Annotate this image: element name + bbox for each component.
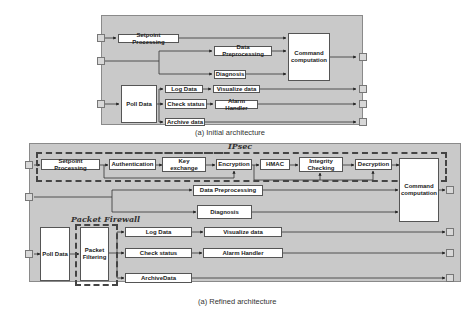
input-port: [25, 161, 33, 169]
initial-caption: (a) Initial architecture: [195, 128, 265, 137]
output-port: [359, 118, 367, 126]
output-port: [359, 100, 367, 108]
archive-data-box: Archive data: [165, 118, 205, 126]
setpoint-processing-box: Setpoint Processing: [41, 159, 100, 170]
data-preprocessing-box: Data Preprocessing: [193, 185, 263, 196]
command-computation-box: Command computation: [399, 158, 439, 222]
poll-data-box: Poll Data: [40, 227, 70, 281]
check-status-box: Check status: [165, 99, 207, 109]
input-port: [97, 100, 105, 108]
output-port: [446, 274, 454, 282]
refined-caption: (a) Refined architecture: [198, 297, 276, 306]
output-port: [359, 85, 367, 93]
archive-data-box: ArchiveData: [125, 273, 192, 283]
alarm-handler-box: Alarm Handler: [215, 100, 258, 109]
visualize-data-box: Visualize data: [213, 85, 260, 93]
diagnosis-box: Diagnosis: [197, 205, 252, 219]
ipsec-label: IPsec: [228, 141, 252, 151]
visualize-data-box: Visualize data: [204, 227, 282, 237]
authentication-box: Authentication: [109, 159, 156, 170]
integrity-checking-box: Integrity Checking: [299, 157, 343, 172]
input-port: [25, 193, 33, 201]
poll-data-box: Poll Data: [121, 85, 157, 123]
output-port: [446, 228, 454, 236]
output-port: [359, 53, 367, 61]
diagnosis-box: Diagnosis: [214, 70, 246, 79]
output-port: [446, 186, 454, 194]
key-exchange-box: Key exchange: [162, 157, 206, 172]
packet-firewall-label: Packet Firewall: [71, 214, 140, 224]
log-data-box: Log Data: [125, 227, 192, 237]
command-computation-box: Command computation: [288, 33, 330, 81]
hmac-box: HMAC: [260, 159, 290, 170]
setpoint-processing-box: Setpoint Processing: [118, 34, 179, 43]
log-data-box: Log Data: [165, 85, 203, 93]
output-port: [446, 249, 454, 257]
input-port: [25, 250, 33, 258]
input-port: [97, 34, 105, 42]
encryption-box: Encryption: [216, 159, 252, 170]
packet-filtering-box: Packet Filtering: [80, 227, 109, 281]
decryption-box: Decryption: [355, 159, 392, 170]
check-status-box: Check status: [125, 248, 192, 258]
alarm-handler-box: Alarm Handler: [203, 248, 283, 258]
data-preprocessing-box: Data Preprocessing: [214, 46, 272, 56]
input-port: [97, 57, 105, 65]
